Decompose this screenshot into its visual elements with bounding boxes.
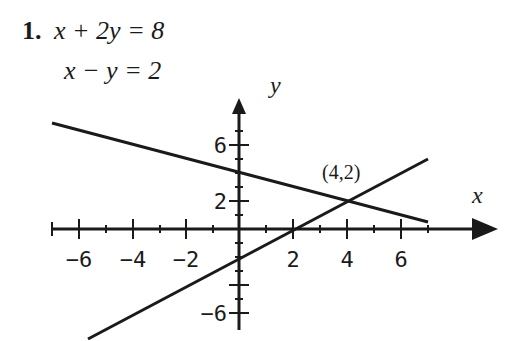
svg-text:6: 6 — [214, 133, 227, 158]
svg-text:6: 6 — [394, 247, 407, 272]
y-axis-arrow-icon — [232, 98, 246, 114]
svg-text:−4: −4 — [120, 247, 147, 272]
x-axis-label: x — [471, 182, 483, 208]
svg-text:2: 2 — [214, 189, 227, 214]
y-axis-label: y — [268, 72, 281, 98]
intersection-label: (4,2) — [322, 161, 360, 184]
svg-text:2: 2 — [286, 247, 299, 272]
svg-text:−6: −6 — [201, 301, 228, 326]
svg-text:−6: −6 — [66, 247, 93, 272]
graph: −6 −4 −2 2 4 6 6 2 −6 y x (4,2) — [0, 0, 509, 341]
svg-text:−2: −2 — [173, 247, 200, 272]
svg-text:4: 4 — [340, 247, 353, 272]
x-axis-arrow-icon — [472, 218, 498, 240]
